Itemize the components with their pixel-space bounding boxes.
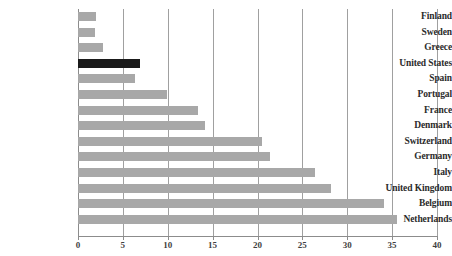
bar-greece[interactable] (78, 43, 103, 52)
bar-netherlands[interactable] (78, 215, 397, 224)
category-label-germany: Germany (378, 151, 452, 161)
category-label-sweden: Sweden (378, 27, 452, 37)
x-tick-label: 35 (380, 240, 404, 250)
category-label-greece: Greece (378, 42, 452, 52)
category-label-denmark: Denmark (378, 120, 452, 130)
category-label-switzerland: Switzerland (378, 136, 452, 146)
bar-united-states[interactable] (78, 59, 140, 68)
x-tick-label: 5 (111, 240, 135, 250)
bar-belgium[interactable] (78, 199, 384, 208)
bar-united-kingdom[interactable] (78, 184, 331, 193)
category-label-finland: Finland (378, 11, 452, 21)
x-tick-label: 20 (246, 240, 270, 250)
bar-chart: 0510152025303540 FinlandSwedenGreeceUnit… (0, 0, 452, 256)
bar-sweden[interactable] (78, 28, 95, 37)
x-tick-label: 15 (201, 240, 225, 250)
x-tick-label: 25 (290, 240, 314, 250)
category-label-united-kingdom: United Kingdom (378, 183, 452, 193)
bar-switzerland[interactable] (78, 137, 262, 146)
bar-finland[interactable] (78, 12, 96, 21)
bar-france[interactable] (78, 106, 198, 115)
category-label-spain: Spain (378, 73, 452, 83)
category-label-belgium: Belgium (378, 198, 452, 208)
category-label-france: France (378, 105, 452, 115)
category-label-united-states: United States (378, 58, 452, 68)
category-label-netherlands: Netherlands (378, 214, 452, 224)
bar-portugal[interactable] (78, 90, 167, 99)
x-tick-label: 40 (425, 240, 449, 250)
bar-denmark[interactable] (78, 121, 205, 130)
x-tick-label: 30 (335, 240, 359, 250)
bar-spain[interactable] (78, 74, 135, 83)
category-label-portugal: Portugal (378, 89, 452, 99)
x-tick-label: 10 (156, 240, 180, 250)
bar-germany[interactable] (78, 152, 270, 161)
category-label-italy: Italy (378, 167, 452, 177)
x-tick-label: 0 (66, 240, 90, 250)
bar-italy[interactable] (78, 168, 315, 177)
